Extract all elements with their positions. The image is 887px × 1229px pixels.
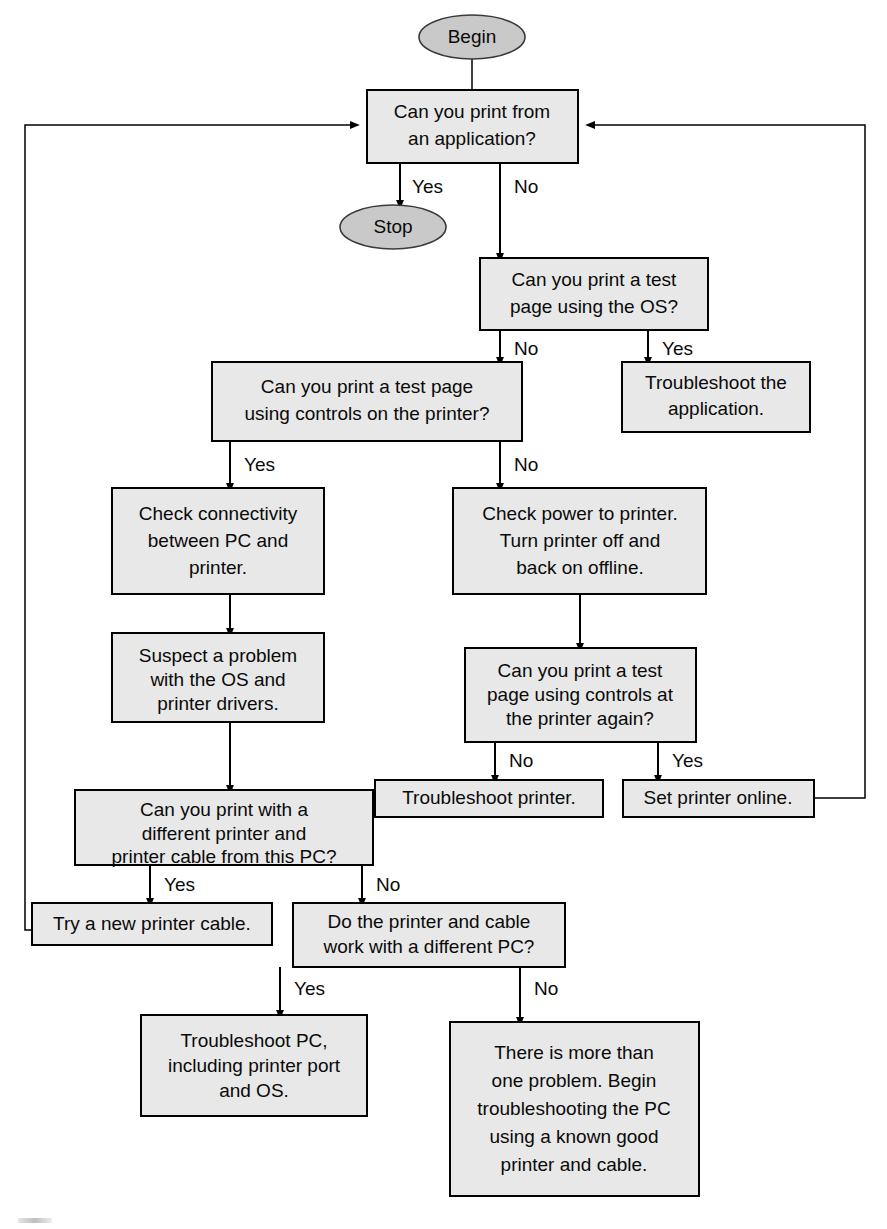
node-more-than-one-problem-line4: using a known good: [489, 1126, 658, 1147]
node-test-page-printer-controls-line1: Can you print a test page: [261, 376, 473, 397]
node-troubleshoot-the-application[interactable]: Troubleshoot the application.: [622, 362, 810, 432]
edge-label-again-yes: Yes: [672, 750, 703, 771]
node-test-page-using-os[interactable]: Can you print a test page using the OS?: [480, 258, 708, 330]
edge-label-controls-yes: Yes: [244, 454, 275, 475]
flowchart-svg: Yes No No Yes Yes No No Yes Yes No Yes N…: [0, 0, 887, 1229]
node-more-than-one-problem-line2: one problem. Begin: [492, 1070, 657, 1091]
node-print-from-application-line2: an application?: [408, 128, 536, 149]
edge-label-app-yes: Yes: [412, 176, 443, 197]
node-begin-label: Begin: [448, 26, 497, 47]
node-work-with-different-pc-line2: work with a different PC?: [323, 936, 535, 957]
node-check-connectivity-line1: Check connectivity: [139, 503, 298, 524]
node-different-printer-and-cable[interactable]: Can you print with a different printer a…: [75, 790, 373, 867]
node-troubleshoot-the-application-line2: application.: [668, 398, 764, 419]
node-try-new-printer-cable[interactable]: Try a new printer cable.: [32, 903, 272, 945]
node-test-page-at-printer-again-line1: Can you print a test: [498, 660, 663, 681]
edge-label-os-no: No: [514, 338, 538, 359]
node-stop-label: Stop: [373, 216, 412, 237]
node-test-page-printer-controls[interactable]: Can you print a test page using controls…: [212, 362, 522, 441]
node-suspect-os-and-drivers-line3: printer drivers.: [157, 693, 278, 714]
node-test-page-at-printer-again-line2: page using controls at: [487, 684, 674, 705]
node-check-connectivity-line2: between PC and: [148, 530, 289, 551]
edge-label-os-yes: Yes: [662, 338, 693, 359]
node-test-page-at-printer-again[interactable]: Can you print a test page using controls…: [465, 648, 696, 742]
node-test-page-using-os-line1: Can you print a test: [512, 269, 677, 290]
node-work-with-different-pc[interactable]: Do the printer and cable work with a dif…: [293, 903, 565, 967]
node-try-new-printer-cable-line1: Try a new printer cable.: [53, 913, 251, 934]
node-begin[interactable]: Begin: [419, 15, 525, 59]
node-different-printer-and-cable-line3: printer cable from this PC?: [112, 846, 337, 867]
node-stop[interactable]: Stop: [340, 205, 446, 249]
node-suspect-os-and-drivers[interactable]: Suspect a problem with the OS and printe…: [112, 633, 324, 722]
node-troubleshoot-pc-line3: and OS.: [219, 1080, 289, 1101]
node-different-printer-and-cable-line1: Can you print with a: [140, 799, 308, 820]
node-more-than-one-problem-line3: troubleshooting the PC: [477, 1098, 670, 1119]
node-check-power-to-printer[interactable]: Check power to printer. Turn printer off…: [453, 488, 706, 594]
edge-label-controls-no: No: [514, 454, 538, 475]
node-check-power-to-printer-line3: back on offline.: [516, 557, 643, 578]
node-check-power-to-printer-line1: Check power to printer.: [482, 503, 677, 524]
node-test-page-at-printer-again-line3: the printer again?: [506, 708, 654, 729]
edge-label-again-no: No: [509, 750, 533, 771]
node-check-connectivity[interactable]: Check connectivity between PC and printe…: [112, 488, 324, 594]
node-different-printer-and-cable-line2: different printer and: [142, 823, 306, 844]
node-print-from-application[interactable]: Can you print from an application?: [367, 90, 578, 163]
flowchart-canvas: Yes No No Yes Yes No No Yes Yes No Yes N…: [0, 0, 887, 1229]
edge-label-different-yes: Yes: [164, 874, 195, 895]
node-print-from-application-line1: Can you print from: [394, 101, 550, 122]
page-caption-fragment: [18, 1218, 52, 1223]
node-check-connectivity-line3: printer.: [189, 557, 247, 578]
edge-label-diffpc-yes: Yes: [294, 978, 325, 999]
edge-label-diffpc-no: No: [534, 978, 558, 999]
node-set-printer-online[interactable]: Set printer online.: [623, 780, 814, 817]
node-more-than-one-problem-line5: printer and cable.: [501, 1154, 648, 1175]
node-suspect-os-and-drivers-line2: with the OS and: [149, 669, 285, 690]
node-test-page-using-os-line2: page using the OS?: [510, 296, 678, 317]
node-troubleshoot-pc-line2: including printer port: [168, 1055, 341, 1076]
edge-label-app-no: No: [514, 176, 538, 197]
node-troubleshoot-the-application-line1: Troubleshoot the: [645, 372, 787, 393]
node-troubleshoot-pc-line1: Troubleshoot PC,: [180, 1030, 327, 1051]
node-troubleshoot-printer[interactable]: Troubleshoot printer.: [375, 780, 603, 817]
edge-label-different-no: No: [376, 874, 400, 895]
node-work-with-different-pc-line1: Do the printer and cable: [328, 911, 531, 932]
node-troubleshoot-pc[interactable]: Troubleshoot PC, including printer port …: [141, 1015, 367, 1116]
node-test-page-printer-controls-line2: using controls on the printer?: [244, 403, 489, 424]
node-more-than-one-problem-line1: There is more than: [494, 1042, 653, 1063]
node-suspect-os-and-drivers-line1: Suspect a problem: [139, 645, 297, 666]
node-check-power-to-printer-line2: Turn printer off and: [500, 530, 661, 551]
node-troubleshoot-printer-line1: Troubleshoot printer.: [402, 787, 576, 808]
node-more-than-one-problem[interactable]: There is more than one problem. Begin tr…: [450, 1022, 699, 1196]
node-set-printer-online-line1: Set printer online.: [644, 787, 793, 808]
